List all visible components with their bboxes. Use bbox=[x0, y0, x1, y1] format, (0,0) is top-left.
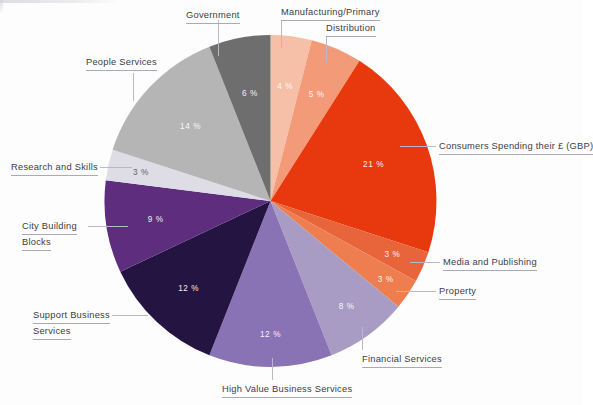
callout-label-government: Government bbox=[186, 8, 240, 24]
callout-label-city-building: City Building Blocks bbox=[22, 219, 77, 251]
leader-line-distribution bbox=[326, 36, 327, 62]
leader-line-research-skills bbox=[100, 167, 132, 168]
callout-text-property: Property bbox=[439, 284, 476, 300]
leader-line-government bbox=[218, 20, 219, 56]
callout-text-city-building-2: Blocks bbox=[22, 235, 51, 251]
callout-label-distribution: Distribution bbox=[326, 21, 376, 37]
pie-slice-percent-label: 3 % bbox=[133, 168, 149, 177]
pie-slice-percent-label: 6 % bbox=[242, 89, 258, 98]
pie-slices-group bbox=[105, 35, 437, 367]
callout-label-manufacturing: Manufacturing/Primary bbox=[281, 5, 380, 21]
pie-slice-percent-label: 8 % bbox=[339, 302, 355, 311]
leader-line-consumers bbox=[400, 146, 436, 147]
callout-text-consumers: Consumers Spending their £ (GBP) bbox=[439, 139, 593, 155]
pie-slice-percent-label: 3 % bbox=[378, 275, 394, 284]
leader-line-people-services bbox=[133, 73, 134, 101]
callout-label-media-publishing: Media and Publishing bbox=[443, 255, 537, 271]
pie-slice-percent-label: 4 % bbox=[277, 82, 293, 91]
leader-line-support-business bbox=[112, 315, 148, 316]
pie-slice-percent-label: 5 % bbox=[309, 90, 325, 99]
pie-slice-percent-label: 12 % bbox=[178, 284, 199, 293]
callout-label-research-skills: Research and Skills bbox=[11, 160, 98, 176]
callout-label-support-business: Support Business Services bbox=[33, 308, 110, 340]
callout-label-consumers: Consumers Spending their £ (GBP) bbox=[439, 139, 593, 155]
callout-label-property: Property bbox=[439, 284, 476, 300]
callout-text-government: Government bbox=[186, 8, 240, 24]
callout-text-support-business-2: Services bbox=[33, 324, 71, 340]
callout-text-distribution: Distribution bbox=[326, 21, 376, 37]
callout-text-city-building-1: City Building bbox=[22, 219, 77, 235]
leader-line-media-publishing bbox=[410, 262, 440, 263]
callout-text-support-business-1: Support Business bbox=[33, 308, 110, 324]
leader-line-manufacturing bbox=[281, 20, 282, 48]
callout-label-high-value: High Value Business Services bbox=[222, 382, 352, 398]
pie-slice-percent-label: 14 % bbox=[180, 122, 201, 131]
callout-text-financial: Financial Services bbox=[362, 352, 442, 368]
leader-line-high-value bbox=[272, 358, 273, 380]
callout-text-manufacturing: Manufacturing/Primary bbox=[281, 5, 380, 21]
callout-text-people-services: People Services bbox=[86, 55, 157, 71]
leader-line-city-building bbox=[88, 226, 128, 227]
pie-slice-percent-label: 21 % bbox=[363, 160, 384, 169]
leader-line-property bbox=[396, 291, 436, 292]
leader-line-financial bbox=[362, 327, 363, 350]
callout-text-research-skills: Research and Skills bbox=[11, 160, 98, 176]
callout-label-financial: Financial Services bbox=[362, 352, 442, 368]
pie-slice-percent-label: 9 % bbox=[148, 215, 164, 224]
pie-slice-percent-label: 12 % bbox=[260, 330, 281, 339]
callout-text-media-publishing: Media and Publishing bbox=[443, 255, 537, 271]
callout-label-people-services: People Services bbox=[86, 55, 157, 71]
callout-text-high-value: High Value Business Services bbox=[222, 382, 352, 398]
pie-slice-percent-label: 3 % bbox=[384, 250, 400, 259]
